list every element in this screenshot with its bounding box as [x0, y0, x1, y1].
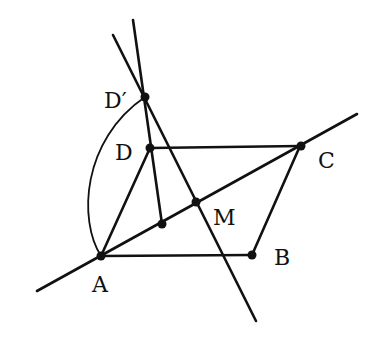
side-dc: [150, 146, 300, 148]
label-dprime: D′: [104, 88, 127, 113]
label-b: B: [274, 245, 290, 270]
label-c: C: [318, 148, 335, 173]
point-c: [297, 142, 306, 151]
geometry-figure: A B C D D′ M: [0, 0, 380, 339]
side-bc: [252, 146, 300, 255]
label-m: M: [213, 205, 236, 230]
label-a: A: [91, 272, 109, 297]
point-dprime: [141, 93, 150, 102]
point-foot: [158, 220, 167, 229]
point-a: [97, 252, 106, 261]
label-d: D: [115, 140, 133, 165]
line-dprime-m: [113, 35, 256, 321]
point-b: [248, 251, 257, 260]
point-d: [146, 144, 155, 153]
side-ab: [101, 255, 252, 256]
point-m: [192, 198, 201, 207]
